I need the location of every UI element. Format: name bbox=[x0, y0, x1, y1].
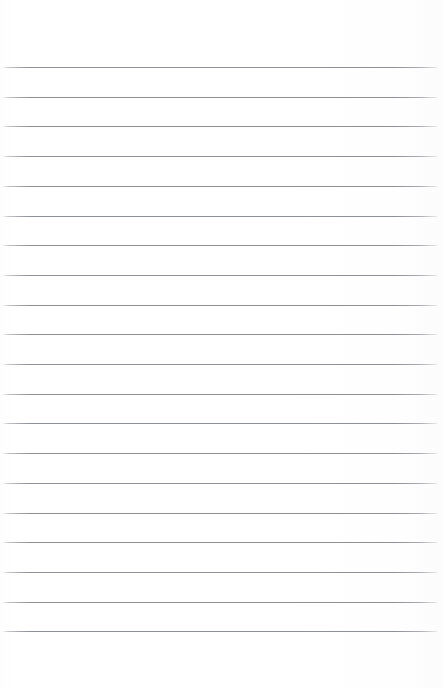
lined-paper-sheet bbox=[0, 0, 442, 688]
writing-area[interactable] bbox=[0, 0, 442, 688]
